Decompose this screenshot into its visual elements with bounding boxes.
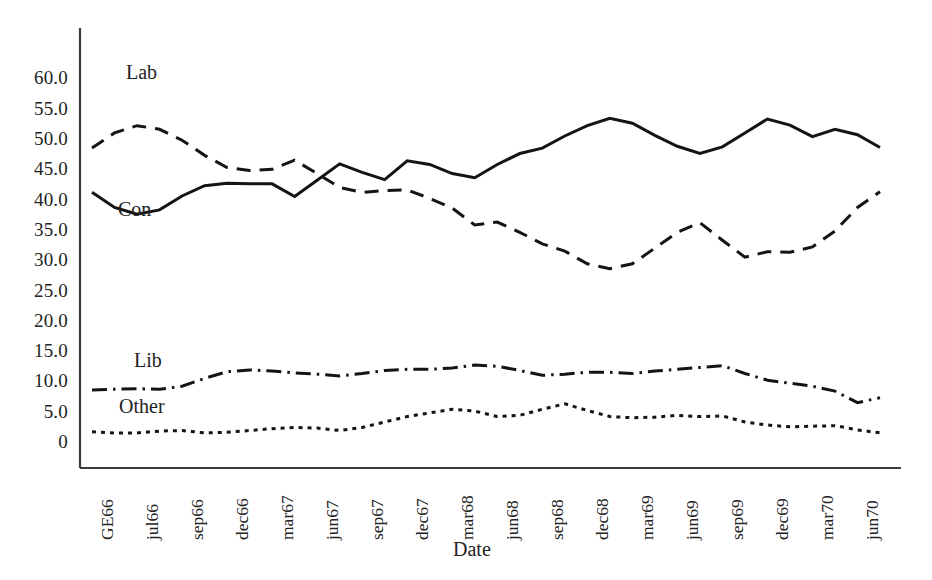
- x-axis-tick-label: sep66: [189, 499, 207, 540]
- chart-plot-area: [0, 0, 932, 580]
- y-axis-tick-label: 30.0: [0, 250, 68, 269]
- y-axis-tick-label: 5.0: [0, 402, 68, 421]
- x-axis-title: Date: [453, 538, 491, 561]
- x-axis-tick-label: mar69: [639, 495, 657, 540]
- y-axis-tick-label: 25.0: [0, 281, 68, 300]
- line-chart: 60.055.050.045.040.035.030.025.020.015.0…: [0, 0, 932, 580]
- x-axis-tick-label: dec67: [414, 498, 432, 540]
- x-axis-tick-label: mar68: [459, 495, 477, 540]
- x-axis-tick-label: dec68: [594, 498, 612, 540]
- y-axis-tick-label: 15.0: [0, 341, 68, 360]
- series-line-lib: [92, 365, 880, 403]
- y-axis-tick-label: 45.0: [0, 159, 68, 178]
- x-axis-tick-label: dec69: [774, 498, 792, 540]
- series-label-lab: Lab: [126, 62, 157, 82]
- axes-group: [80, 28, 901, 468]
- y-axis-tick-label: 20.0: [0, 311, 68, 330]
- y-axis-tick-label: 10.0: [0, 371, 68, 390]
- series-group: [92, 118, 880, 433]
- x-axis-tick-label: jul66: [144, 504, 162, 540]
- x-axis-tick-label: jun68: [504, 500, 522, 540]
- y-axis-tick-label: 35.0: [0, 220, 68, 239]
- y-axis-tick-label: 60.0: [0, 68, 68, 87]
- y-axis-tick-label: 55.0: [0, 99, 68, 118]
- y-axis-tick-label: 0: [0, 432, 68, 451]
- series-label-lib: Lib: [134, 350, 162, 370]
- x-axis-tick-label: jun70: [864, 500, 882, 540]
- series-line-lab: [92, 126, 880, 269]
- x-axis-tick-label: jun69: [684, 500, 702, 540]
- y-axis-tick-label: 40.0: [0, 190, 68, 209]
- x-axis-tick-label: GE66: [99, 499, 117, 540]
- series-line-con: [92, 118, 880, 214]
- series-label-con: Con: [118, 199, 151, 219]
- series-line-other: [92, 404, 880, 433]
- x-axis-tick-label: sep68: [549, 499, 567, 540]
- series-label-other: Other: [119, 396, 165, 416]
- x-axis-tick-label: mar70: [819, 495, 837, 540]
- x-axis-tick-label: sep67: [369, 499, 387, 540]
- y-axis-tick-label: 50.0: [0, 129, 68, 148]
- x-axis-tick-label: mar67: [279, 495, 297, 540]
- x-axis-tick-label: jun67: [324, 500, 342, 540]
- x-axis-tick-label: dec66: [234, 498, 252, 540]
- x-axis-tick-label: sep69: [729, 499, 747, 540]
